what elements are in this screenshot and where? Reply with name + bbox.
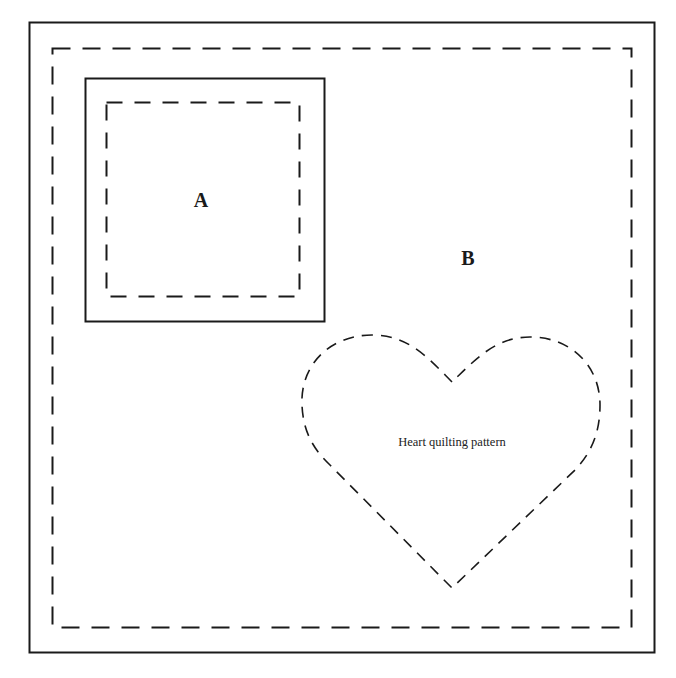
heart-pattern-label: Heart quilting pattern (398, 435, 506, 449)
heart-quilting-line (302, 335, 600, 588)
label-b: B (461, 247, 474, 269)
label-a: A (194, 189, 209, 211)
outer-block-border (30, 23, 655, 653)
quilt-diagram: A B Heart quilting pattern (0, 0, 676, 678)
